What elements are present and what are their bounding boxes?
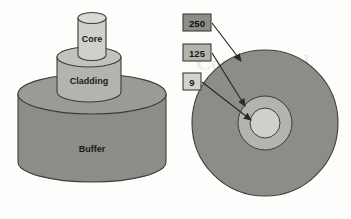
cross-section <box>192 50 338 196</box>
buffer-label: Buffer <box>79 144 106 154</box>
core-cylinder-top <box>78 13 106 24</box>
callout-250: 250 <box>183 14 211 31</box>
callout-125-text: 125 <box>189 48 206 59</box>
callout-250-text: 250 <box>189 18 205 29</box>
core-cylinder: Core <box>78 13 106 61</box>
callout-9-text: 9 <box>189 77 194 88</box>
core-circle <box>250 108 280 138</box>
cladding-label: Cladding <box>70 76 109 86</box>
callout-125: 125 <box>183 44 211 61</box>
figure-canvas: Copyrighted Material Buffer Cladding Cor… <box>0 0 351 219</box>
callout-9: 9 <box>183 73 201 90</box>
diagram-svg: Copyrighted Material Buffer Cladding Cor… <box>0 0 351 219</box>
core-label: Core <box>82 34 103 44</box>
stacked-cylinders: Buffer Cladding Core <box>18 13 166 183</box>
